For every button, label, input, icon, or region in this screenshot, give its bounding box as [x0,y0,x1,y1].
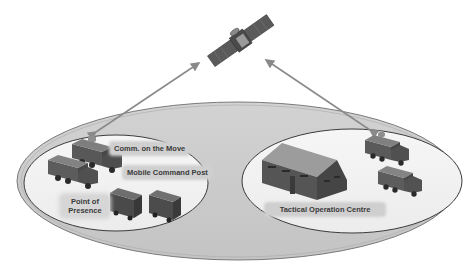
satellite-icon [204,9,275,68]
tactical-operation-centre-label: Tactical Operation Centre [266,204,384,215]
network-diagram: Comm. on the Move Mobile Command Post Po… [0,0,476,267]
point-of-presence-label: Point of Presence [62,196,108,216]
mobile-command-post-label: Mobile Command Post [124,167,211,178]
comm-on-the-move-label: Comm. on the Move [111,143,188,154]
